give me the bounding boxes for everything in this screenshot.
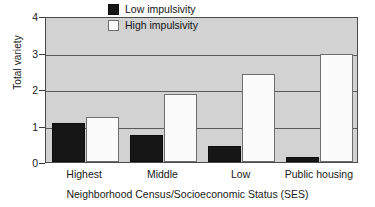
- y-axis-tick-label: 0: [22, 158, 38, 168]
- chart-legend: Low impulsivityHigh impulsivity: [108, 3, 198, 32]
- bar-high-impulsivity: [164, 94, 197, 162]
- bar-high-impulsivity: [86, 117, 119, 162]
- x-axis-title: Neighborhood Census/Socioeconomic Status…: [0, 188, 375, 200]
- legend-item-label: High impulsivity: [125, 20, 198, 31]
- y-axis-tick-label: 1: [22, 122, 38, 132]
- legend-item: High impulsivity: [108, 19, 198, 32]
- bar-low-impulsivity: [130, 135, 163, 162]
- gridline: [46, 91, 357, 92]
- bar-high-impulsivity: [320, 54, 353, 162]
- bar-high-impulsivity: [242, 74, 275, 162]
- y-axis-title: Total variety: [12, 8, 23, 118]
- bar-chart-figure: Total variety 01234 HighestMiddleLowPubl…: [0, 0, 375, 207]
- light-square-icon: [108, 20, 119, 31]
- plot-area: [45, 17, 358, 163]
- dark-square-icon: [108, 4, 119, 15]
- y-axis-tick-label: 2: [22, 85, 38, 95]
- y-axis-tick-label: 4: [22, 12, 38, 22]
- bar-low-impulsivity: [208, 146, 241, 162]
- y-axis-tick-mark: [39, 163, 45, 164]
- gridline: [46, 55, 357, 56]
- bar-low-impulsivity: [286, 157, 319, 162]
- y-axis-tick-label: 3: [22, 49, 38, 59]
- bar-low-impulsivity: [52, 123, 85, 162]
- legend-item-label: Low impulsivity: [125, 4, 196, 15]
- legend-item: Low impulsivity: [108, 3, 198, 16]
- x-axis-tick-label: Public housing: [259, 168, 375, 180]
